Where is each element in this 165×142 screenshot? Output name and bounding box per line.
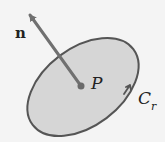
point-p-dot bbox=[78, 83, 85, 90]
diagram-canvas: n P C r bbox=[0, 0, 165, 142]
normal-label: n bbox=[15, 24, 26, 42]
point-label: P bbox=[90, 73, 103, 93]
disk-region bbox=[9, 18, 157, 142]
curve-subscript: r bbox=[151, 100, 157, 113]
curve-label: C bbox=[138, 88, 151, 108]
